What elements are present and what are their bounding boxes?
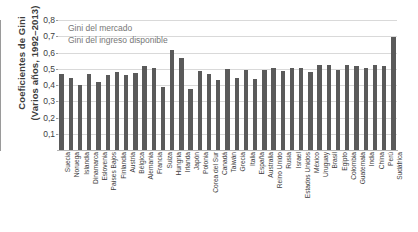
y-tick-mark <box>56 118 58 119</box>
y-tick-label: 0,3 <box>33 97 55 106</box>
bar <box>364 68 368 150</box>
bar <box>87 74 91 150</box>
x-tick-label: Canadá <box>221 152 228 175</box>
bar <box>142 66 146 150</box>
bar <box>281 71 285 150</box>
bar <box>391 37 395 150</box>
bar <box>336 70 340 150</box>
bar <box>133 73 137 150</box>
bar <box>354 66 358 150</box>
bar <box>179 58 183 150</box>
bar <box>290 68 294 150</box>
bar <box>115 72 119 150</box>
bar <box>59 74 63 150</box>
bar <box>308 72 312 150</box>
x-tick-label: Francia <box>156 152 163 174</box>
y-tick-label: 0,8 <box>33 16 55 25</box>
bar <box>253 79 257 151</box>
y-tick-label: 0,4 <box>33 81 55 90</box>
y-tick-label: 0,6 <box>33 49 55 58</box>
y-tick-mark <box>56 36 58 37</box>
bar <box>124 75 128 150</box>
x-tick-label: Islandia <box>83 152 90 175</box>
y-tick-mark <box>56 101 58 102</box>
y-axis-line <box>0 20 1 151</box>
x-tick-label: Suiza <box>166 152 173 169</box>
bar <box>373 65 377 150</box>
x-tick-label: Países Bajos <box>110 152 117 190</box>
y-tick-mark <box>56 69 58 70</box>
x-tick-label: Hungría <box>175 152 182 175</box>
bar <box>317 65 321 150</box>
bar <box>106 75 110 150</box>
bar <box>170 50 174 150</box>
x-tick-label: Uruguay <box>322 152 329 177</box>
bar <box>198 71 202 150</box>
x-tick-label: Italia <box>249 152 256 166</box>
x-tick-label: Noruega <box>73 152 80 177</box>
bar <box>225 69 229 150</box>
x-tick-label: India <box>368 152 375 166</box>
bar <box>345 65 349 150</box>
y-tick-label: 0,1 <box>33 130 55 139</box>
x-tick-label: Sudáfrica <box>396 152 403 180</box>
x-tick-label: Israel <box>295 152 302 168</box>
x-tick-label: Brasil <box>331 152 338 169</box>
x-tick-label: Suecia <box>64 152 71 172</box>
x-tick-label: Guatemala <box>359 152 366 184</box>
x-tick-label: Colombia <box>350 152 357 180</box>
x-tick-label: Finlandia <box>120 152 127 179</box>
y-tick-label: 0,7 <box>33 32 55 41</box>
y-tick-label: 0,2 <box>33 114 55 123</box>
legend-entry-market-gini: Gini del mercado <box>68 23 168 35</box>
x-tick-label: Polonia <box>202 152 209 174</box>
x-tick-label: Corea del Sur <box>212 152 219 193</box>
bar <box>262 70 266 150</box>
x-tick-label: Reino Unido <box>276 152 283 188</box>
x-tick-label: Rusia <box>285 152 292 169</box>
x-axis-tick-labels: SueciaNoruegaIslandiaDinamarcaEsloveniaP… <box>57 152 398 230</box>
bar <box>78 85 82 150</box>
x-tick-label: Eslovenia <box>101 152 108 181</box>
bar <box>382 66 386 150</box>
x-tick-label: Perú <box>387 152 394 166</box>
bar <box>152 68 156 150</box>
x-tick-label: Alemania <box>147 152 154 180</box>
bar <box>188 89 192 150</box>
x-tick-label: México <box>313 152 320 173</box>
x-tick-label: Egipto <box>341 152 348 171</box>
bar <box>271 68 275 150</box>
bar <box>207 74 211 150</box>
bar <box>161 87 165 150</box>
gini-bar-chart: Coeficientes de Gini (Varios años, 1992–… <box>0 0 418 232</box>
legend: Gini del mercado Gini del ingreso dispon… <box>68 23 168 46</box>
bar <box>96 82 100 150</box>
x-tick-label: Estados Unidos <box>304 152 311 198</box>
x-tick-label: Bélgica <box>138 152 145 174</box>
y-tick-mark <box>56 20 58 21</box>
y-tick-label: 0,5 <box>33 65 55 74</box>
y-axis-tick-labels: 0,80,70,60,50,40,30,20,1 <box>31 0 55 232</box>
bar <box>327 65 331 150</box>
x-tick-label: Taiwán <box>230 152 237 173</box>
x-tick-label: China <box>378 152 385 169</box>
bar <box>244 70 248 150</box>
x-tick-label: Dinamarca <box>92 152 99 184</box>
x-tick-label: Grecia <box>239 152 246 171</box>
bar <box>216 80 220 150</box>
x-tick-label: Australia <box>267 152 274 178</box>
legend-entry-disposable-income-gini: Gini del ingreso disponible <box>68 35 168 47</box>
y-tick-mark <box>56 85 58 86</box>
x-tick-label: Japón <box>193 152 200 170</box>
bar <box>69 78 73 150</box>
x-tick-label: Austria <box>129 152 136 173</box>
bar <box>235 78 239 150</box>
x-tick-label: España <box>258 152 265 174</box>
y-tick-mark <box>56 134 58 135</box>
bar <box>299 68 303 150</box>
y-tick-mark <box>56 53 58 54</box>
x-tick-label: Irlanda <box>184 152 191 172</box>
